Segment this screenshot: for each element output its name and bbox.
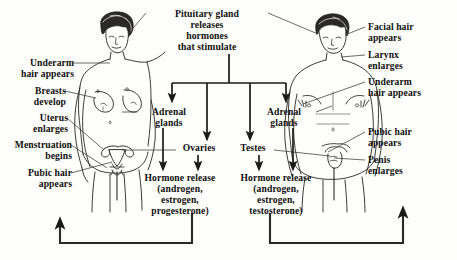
male-label-underarm-hair: Underarm hair appears — [368, 77, 457, 98]
female-label-menstruation-begins: Menstruation begins — [0, 140, 72, 161]
diagram-canvas: Pituitary gland releases hormones that s… — [0, 0, 457, 260]
node-hormone-release-male: Hormone release (androgen, estrogen, tes… — [224, 172, 328, 216]
male-label-penis-enlarges: Penis enlarges — [368, 155, 457, 176]
female-leader-lines — [65, 63, 112, 173]
node-adrenal-glands-left: Adrenal glands — [138, 106, 200, 128]
pituitary-title-block: Pituitary gland releases hormones that s… — [148, 8, 266, 52]
female-label-uterus-enlarges: Uterus enlarges — [0, 113, 68, 134]
node-testes: Testes — [231, 143, 275, 154]
male-label-larynx-enlarges: Larynx enlarges — [368, 50, 457, 71]
node-hormone-release-female: Hormone release (androgen, estrogen, pro… — [128, 172, 232, 216]
node-ovaries: Ovaries — [176, 143, 222, 154]
male-label-facial-hair: Facial hair appears — [368, 22, 457, 43]
feedback-loop-left — [60, 213, 192, 243]
female-label-pubic-hair: Pubic hair appears — [0, 168, 72, 189]
male-label-pubic-hair: Pubic hair appears — [368, 127, 457, 148]
female-label-underarm-hair: Underarm hair appears — [0, 58, 74, 79]
female-label-breasts-develop: Breasts develop — [0, 86, 66, 107]
node-adrenal-glands-right: Adrenal glands — [253, 106, 315, 128]
feedback-loop-right — [270, 212, 403, 243]
